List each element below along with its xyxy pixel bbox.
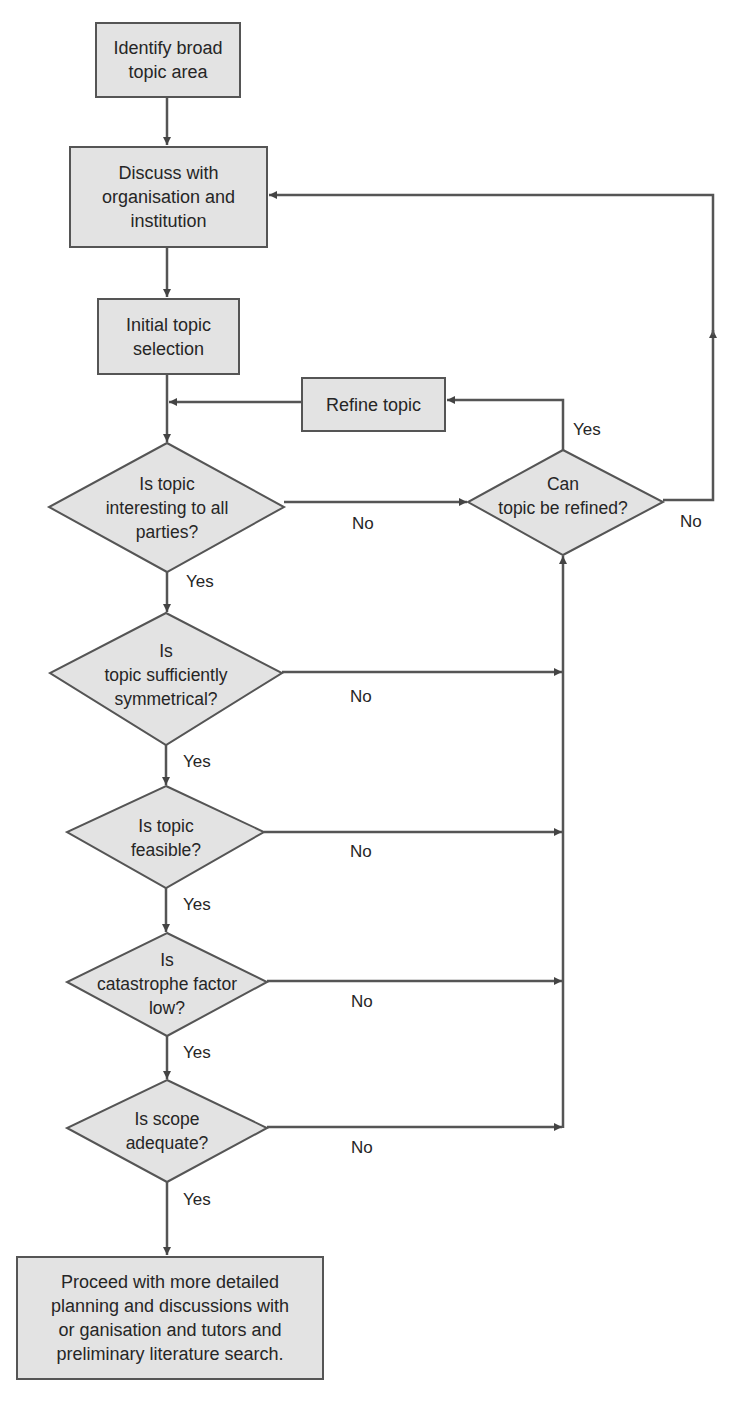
edge-label-no: No [351, 992, 373, 1012]
box-identify-topic: Identify broad topic area [95, 22, 241, 98]
arrow-refined-yes [447, 400, 563, 450]
box-proceed: Proceed with more detailed planning and … [16, 1256, 324, 1380]
box-label: Refine topic [326, 393, 421, 417]
diamond-label-feasible: Is topic feasible? [86, 810, 246, 866]
edge-label-no: No [350, 842, 372, 862]
edge-label-yes: Yes [183, 752, 211, 772]
diamond-label-scope: Is scope adequate? [87, 1103, 247, 1159]
box-initial-selection: Initial topic selection [97, 298, 240, 375]
box-label: Identify broad topic area [113, 36, 222, 84]
edge-label-yes: Yes [573, 420, 601, 440]
edge-label-yes: Yes [183, 1190, 211, 1210]
edge-label-yes: Yes [186, 572, 214, 592]
box-discuss: Discuss with organisation and institutio… [69, 146, 268, 248]
edge-label-no: No [680, 512, 702, 532]
edge-label-no: No [352, 514, 374, 534]
diamond-label-catastrophe: Is catastrophe factor low? [67, 945, 267, 1023]
box-label: Initial topic selection [126, 313, 211, 361]
edge-label-yes: Yes [183, 1043, 211, 1063]
diamond-label-symmetrical: Is topic sufficiently symmetrical? [66, 632, 266, 718]
box-label: Discuss with organisation and institutio… [102, 161, 235, 233]
edge-label-no: No [350, 687, 372, 707]
edge-label-no: No [351, 1138, 373, 1158]
box-label: Proceed with more detailed planning and … [51, 1270, 289, 1366]
edge-label-yes: Yes [183, 895, 211, 915]
arrow-refined-no-to-discuss [269, 195, 713, 335]
diamond-label-refined: Can topic be refined? [473, 466, 653, 526]
diamond-label-interesting: Is topic interesting to all parties? [67, 462, 267, 554]
box-refine-topic: Refine topic [301, 377, 446, 432]
arrow-refined-no-up [663, 330, 713, 500]
